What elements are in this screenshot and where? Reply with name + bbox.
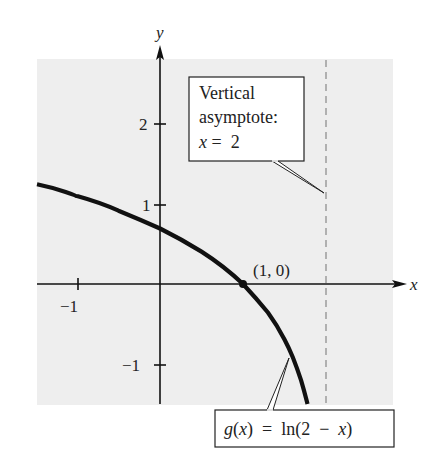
fn-x2: x xyxy=(337,419,346,439)
fn-g: g xyxy=(224,419,233,439)
y-axis-label: y xyxy=(154,23,164,42)
asymptote-callout-eq: = 2 xyxy=(207,132,240,152)
asymptote-callout-line1: Vertical xyxy=(199,83,255,103)
graph-figure: x y −1 2 1 −1 (1, 0) Vertical asymptote:… xyxy=(0,0,432,455)
y-tick-label-neg1: −1 xyxy=(122,356,140,375)
asymptote-callout-line3: x = 2 xyxy=(198,132,240,152)
fn-close: ) xyxy=(346,419,352,440)
x-axis-label: x xyxy=(409,275,418,294)
asymptote-callout-line2: asymptote: xyxy=(199,107,278,127)
point-label: (1, 0) xyxy=(253,261,290,280)
x-tick-label-neg1: −1 xyxy=(60,297,78,316)
function-callout-text: g(x) = ln(2 − x) xyxy=(224,419,352,440)
y-tick-label-1: 1 xyxy=(142,196,151,215)
fn-x1: x xyxy=(238,419,247,439)
point-1-0 xyxy=(239,280,247,288)
y-tick-label-2: 2 xyxy=(139,115,148,134)
fn-mid: ) = ln(2 − xyxy=(247,419,338,440)
asymptote-callout-var: x xyxy=(198,132,207,152)
